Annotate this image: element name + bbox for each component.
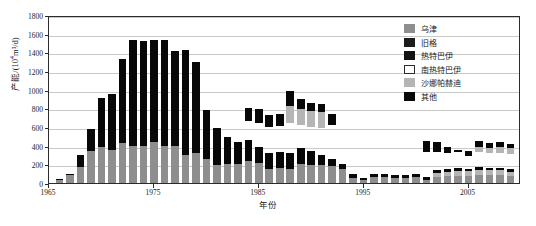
bar-segment-qita xyxy=(286,91,294,106)
legend-label-wujin: 乌津 xyxy=(421,23,437,34)
bar-segment-qita xyxy=(360,178,368,180)
legend-swatch-nanrete xyxy=(404,65,415,74)
bar-segment-qita xyxy=(423,141,431,152)
bar-segment-qita xyxy=(98,98,106,147)
legend-swatch-qita xyxy=(404,92,415,101)
bar-segment-qita xyxy=(66,174,74,175)
y-tick-label: 1600 xyxy=(9,30,43,39)
bar-segment-qita xyxy=(349,174,357,178)
bar-segment-qita xyxy=(370,174,378,178)
bar-segment-qita xyxy=(433,142,441,152)
stacked-bar xyxy=(192,15,200,183)
bar-segment-qita xyxy=(203,110,211,159)
bar-segment-wujin xyxy=(360,180,368,183)
bar-segment-qita xyxy=(119,59,127,143)
bar-segment-wujin xyxy=(77,167,85,183)
bar-segment-wujin xyxy=(161,146,169,183)
bar-segment-qita xyxy=(161,40,169,146)
bar-segment-qita xyxy=(276,114,284,126)
bar-segment-qita xyxy=(307,103,315,111)
bar-segment-wujin xyxy=(171,146,179,183)
stacked-bar xyxy=(391,15,399,183)
legend-label-shana: 沙娜帕赫迪 xyxy=(421,77,461,88)
bar-segment-wujin xyxy=(108,150,116,183)
bar-segment-wujin xyxy=(391,178,399,183)
floating-bar xyxy=(265,15,273,183)
bar-segment-shana xyxy=(496,147,504,153)
bar-segment-qita xyxy=(213,128,221,165)
y-tick-label: 400 xyxy=(9,142,43,151)
bar-segment-qita xyxy=(150,40,158,142)
bar-segment-wujin xyxy=(370,177,378,183)
bar-segment-qita xyxy=(265,115,273,127)
floating-bar xyxy=(507,15,515,183)
bar-segment-wujin xyxy=(87,151,95,183)
floating-bar xyxy=(255,15,263,183)
legend-item-qita: 其他 xyxy=(404,90,496,104)
bar-segment-qita xyxy=(224,137,232,164)
bar-segment-wujin xyxy=(234,164,242,183)
y-tick-label: 0 xyxy=(9,180,43,189)
legend-label-qita: 其他 xyxy=(421,91,437,102)
bar-segment-shana xyxy=(286,106,294,124)
bar-segment-wujin xyxy=(349,178,357,183)
bar-segment-qita xyxy=(339,164,347,169)
stacked-bar xyxy=(119,15,127,183)
stacked-bar xyxy=(381,15,389,183)
stacked-bar xyxy=(87,15,95,183)
bar-segment-qita xyxy=(87,129,95,151)
x-tick-mark xyxy=(153,184,154,188)
bar-segment-wujin xyxy=(402,178,410,183)
legend-item-rete: 热特巴伊 xyxy=(404,49,496,63)
bar-segment-wujin xyxy=(192,153,200,183)
y-tick-label: 1000 xyxy=(9,86,43,95)
bar-segment-qita xyxy=(328,114,336,125)
bar-segment-wujin xyxy=(203,159,211,183)
bar-segment-qita xyxy=(245,108,253,121)
floating-bar xyxy=(276,15,284,183)
stacked-bar xyxy=(77,15,85,183)
bar-segment-qita xyxy=(234,142,242,163)
stacked-bar xyxy=(98,15,106,183)
bar-segment-shana xyxy=(475,147,483,153)
floating-bar xyxy=(307,15,315,183)
floating-bar xyxy=(286,15,294,183)
chart-legend: 乌津旧格热特巴伊南热特巴伊沙娜帕赫迪其他 xyxy=(404,22,496,103)
bar-segment-qita xyxy=(77,155,85,166)
bar-segment-qita xyxy=(297,99,305,109)
bar-segment-qita xyxy=(108,94,116,150)
stacked-bar xyxy=(213,15,221,183)
x-tick-label: 1985 xyxy=(250,188,265,197)
legend-item-nanrete: 南热特巴伊 xyxy=(404,63,496,77)
stacked-bar xyxy=(171,15,179,183)
bar-segment-wujin xyxy=(381,177,389,183)
stacked-bar xyxy=(129,15,137,183)
floating-bar xyxy=(328,15,336,183)
stacked-bar xyxy=(140,15,148,183)
bar-segment-shana xyxy=(486,148,494,154)
legend-item-jiuge: 旧格 xyxy=(404,36,496,50)
floating-bar xyxy=(318,15,326,183)
bar-segment-qita xyxy=(391,175,399,178)
bar-segment-qita xyxy=(496,142,504,147)
x-tick-label: 1975 xyxy=(145,188,160,197)
x-axis-label: 年份 xyxy=(0,198,536,210)
y-tick-label: 600 xyxy=(9,124,43,133)
x-tick-label: 1995 xyxy=(355,188,370,197)
y-tick-label: 1400 xyxy=(9,49,43,58)
bar-segment-qita xyxy=(465,151,473,156)
stacked-bar xyxy=(108,15,116,183)
legend-swatch-jiuge xyxy=(404,38,415,47)
y-tick-label: 1200 xyxy=(9,68,43,77)
bar-segment-qita xyxy=(56,179,64,180)
bar-segment-qita xyxy=(475,141,483,147)
x-tick-mark xyxy=(258,184,259,188)
floating-bar xyxy=(496,15,504,183)
bar-segment-wujin xyxy=(412,177,420,183)
y-tick-label: 800 xyxy=(9,105,43,114)
legend-swatch-shana xyxy=(404,78,415,87)
bar-segment-qita xyxy=(381,174,389,177)
bar-segment-qita xyxy=(507,144,515,149)
bar-segment-shana xyxy=(297,109,305,125)
bar-segment-wujin xyxy=(182,155,190,183)
